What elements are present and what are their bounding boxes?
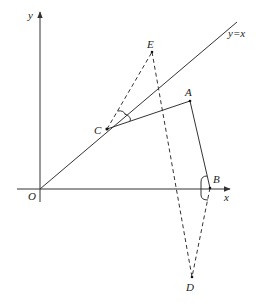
label-point-C: C [94, 124, 102, 136]
angle-mark-B-upper [201, 176, 207, 189]
angle-mark-C-lower [125, 114, 130, 121]
label-origin: O [28, 190, 36, 202]
label-point-E: E [146, 38, 154, 50]
label-y-axis: y [27, 9, 33, 21]
angle-mark-B-lower [201, 189, 208, 200]
label-point-A: A [184, 86, 192, 98]
geometry-diagram: y x O y=x A B C D E [0, 0, 260, 308]
label-point-D: D [185, 281, 194, 293]
segment-BD [192, 188, 210, 277]
line-y-equals-x [40, 22, 237, 189]
label-line-y-equals-x: y=x [227, 27, 245, 39]
segment-AB [190, 101, 210, 188]
point-C [105, 127, 108, 130]
label-point-B: B [213, 173, 220, 185]
segment-CA [107, 101, 190, 129]
point-A [189, 100, 192, 103]
point-B [209, 187, 212, 190]
angle-mark-C-upper [118, 111, 126, 115]
point-E [151, 51, 154, 54]
point-D [191, 276, 194, 279]
label-x-axis: x [223, 191, 229, 203]
